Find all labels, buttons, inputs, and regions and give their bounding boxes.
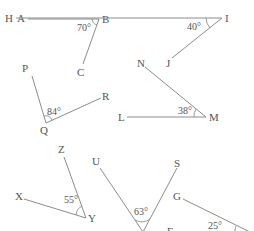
angle-measure-q: 84° (47, 106, 61, 117)
point-label-j: J (166, 57, 171, 69)
point-label-n: N (137, 57, 145, 69)
angle-arc-m (194, 109, 196, 117)
ray-u (100, 168, 143, 231)
angle-arc-i (206, 18, 210, 28)
point-label-p: P (22, 62, 28, 74)
point-label-b: B (102, 13, 109, 25)
point-label-m: M (209, 111, 219, 123)
angles-diagram: A B C 70° H I J 40° P Q R 84° N M L 38° (0, 0, 254, 231)
point-label-f: F (167, 225, 173, 231)
point-label-h: H (5, 12, 13, 24)
point-label-s: S (174, 157, 180, 169)
angle-arc-y (76, 206, 82, 215)
point-label-x: X (15, 190, 23, 202)
angle-measure-y: 55° (64, 194, 78, 205)
point-label-i: I (225, 12, 229, 24)
angle-gf: G F 25° (167, 190, 250, 231)
angle-measure-25: 25° (208, 220, 222, 231)
ray-yz (64, 157, 86, 218)
ray-mn (145, 67, 206, 117)
angle-arc-63 (135, 219, 150, 222)
angle-hij: H I J 40° (5, 12, 229, 69)
angle-pqr: P Q R 84° (22, 62, 110, 136)
angle-measure-i: 40° (187, 21, 201, 32)
point-label-u: U (92, 155, 100, 167)
angle-measure-63: 63° (134, 206, 148, 217)
angle-arc-25 (235, 226, 236, 231)
angle-abc: A B C 70° (17, 12, 109, 78)
ray-qp (32, 76, 46, 123)
point-label-z: Z (58, 143, 65, 155)
point-label-c: C (77, 66, 84, 78)
point-label-l: L (118, 111, 125, 123)
point-label-g: G (173, 190, 181, 202)
angle-arc-b (92, 19, 97, 25)
angle-us: U S 63° (92, 155, 180, 231)
point-label-y: Y (88, 212, 96, 224)
angle-zyx: Z Y X 55° (15, 143, 96, 224)
ray-s (143, 168, 177, 231)
point-label-r: R (102, 90, 110, 102)
angle-measure-b: 70° (77, 22, 91, 33)
angle-measure-m: 38° (178, 105, 192, 116)
point-label-q: Q (40, 124, 48, 136)
